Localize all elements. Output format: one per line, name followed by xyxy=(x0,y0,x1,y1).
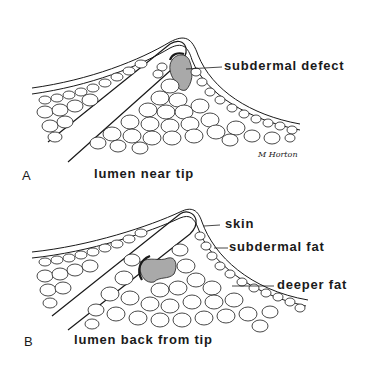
label-skin: skin xyxy=(225,216,254,231)
label-subdermal-fat: subdermal fat xyxy=(229,239,325,254)
caption-a: lumen near tip xyxy=(94,166,194,181)
label-deeper-fat: deeper fat xyxy=(277,277,347,292)
caption-b: lumen back from tip xyxy=(74,332,213,347)
illustration-a xyxy=(0,0,375,190)
artist-signature: M Horton xyxy=(258,150,298,159)
panel-letter-b: B xyxy=(24,334,33,349)
panel-a-lumen-near-tip: subdermal defect M Horton A lumen near t… xyxy=(0,0,375,190)
label-subdermal-defect: subdermal defect xyxy=(224,58,344,73)
panel-letter-a: A xyxy=(22,168,31,183)
subdermal-defect-shape xyxy=(140,258,176,283)
panel-b-lumen-back-from-tip: skin subdermal fat deeper fat B lumen ba… xyxy=(0,190,375,381)
